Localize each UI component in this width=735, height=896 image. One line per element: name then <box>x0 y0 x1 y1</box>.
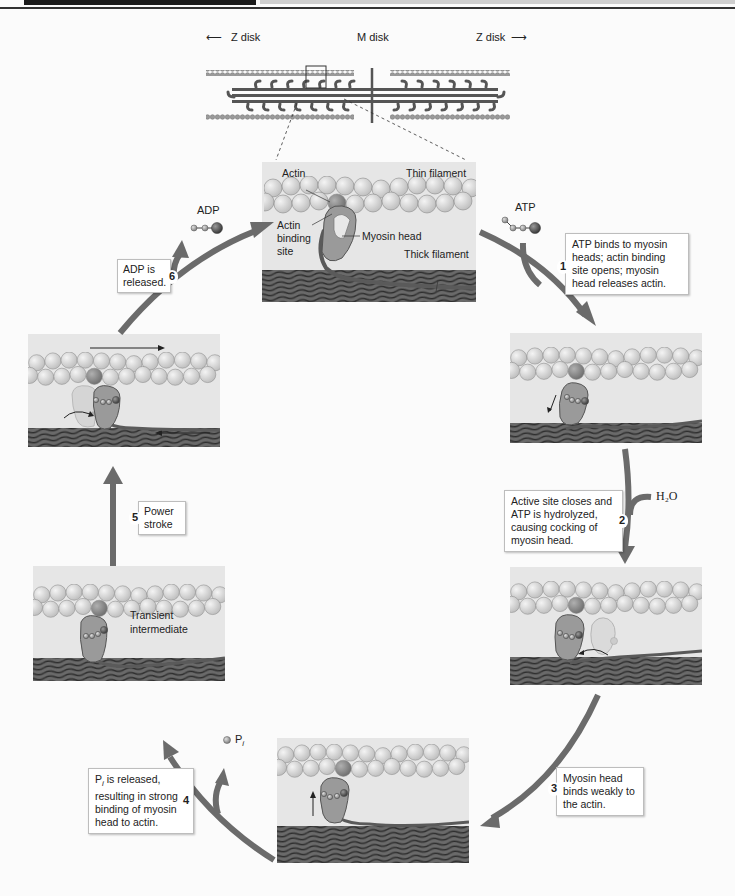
step-3-line-2: binds weakly to <box>563 785 637 798</box>
water-label: H₂O <box>656 490 678 503</box>
step-4-callout: Pi is released, resulting in strong bind… <box>88 768 194 834</box>
step-3-number: 3 <box>548 782 560 796</box>
label-myosin-head: Myosin head <box>362 230 422 243</box>
step-1-callout: ATP binds to myosin heads; actin binding… <box>565 233 689 295</box>
label-actin-binding-site-l3: site <box>277 245 293 258</box>
step-5-line-2: stroke <box>144 518 180 531</box>
step-2-line-3: causing cocking of <box>511 521 616 534</box>
label-actin-binding-site-l2: binding <box>277 232 311 245</box>
pi-icon <box>222 735 232 745</box>
label-actin-binding-site-l1: Actin <box>277 219 300 232</box>
step-3-callout: Myosin head binds weakly to the actin. <box>556 767 644 816</box>
step-4-line-3: binding of myosin <box>95 803 187 816</box>
panel-cocked-head <box>510 567 702 685</box>
panel-power-stroke <box>28 334 220 447</box>
step-4-line-2: resulting in strong <box>95 790 187 803</box>
step-4-line-4: head to actin. <box>95 816 187 829</box>
label-transient-l2: intermediate <box>130 623 188 636</box>
pi-label-sub: i <box>242 739 244 748</box>
step-4-line-1: Pi is released, <box>95 773 187 790</box>
adp-label: ADP <box>197 204 220 217</box>
step-1-line-3: site opens; myosin <box>572 264 682 277</box>
step-2-number: 2 <box>616 514 628 528</box>
step-2-line-1: Active site closes and <box>511 495 616 508</box>
adp-icon <box>189 219 229 237</box>
step-4-pi-sub: i <box>102 779 104 788</box>
step-1-line-4: head releases actin. <box>572 277 682 290</box>
step-4-number: 4 <box>180 794 192 808</box>
step-1-line-2: heads; actin binding <box>572 251 682 264</box>
step-6-line-1: ADP is <box>123 263 165 276</box>
step-4-pi-base: P <box>95 773 102 785</box>
step-4-line-1-text: is released, <box>107 773 161 785</box>
step-5-line-1: Power <box>144 505 180 518</box>
step-2-callout: Active site closes and ATP is hydrolyzed… <box>504 490 623 552</box>
step-1-number: 1 <box>557 260 569 274</box>
step-1-line-1: ATP binds to myosin <box>572 238 682 251</box>
step-3-line-1: Myosin head <box>563 772 637 785</box>
sarcomere-illustration <box>0 0 735 160</box>
panel-transient-intermediate: Transient intermediate <box>33 566 225 681</box>
step-5-callout: Power stroke <box>138 501 186 535</box>
label-actin: Actin <box>282 167 305 180</box>
step-2-line-2: ATP is hydrolyzed, <box>511 508 616 521</box>
step-5-number: 5 <box>129 511 141 525</box>
step-6-number: 6 <box>166 270 178 284</box>
label-thin-filament: Thin filament <box>406 167 466 180</box>
atp-icon <box>499 214 545 244</box>
panel-atp-bound <box>510 333 702 443</box>
panel-rigor-state: Actin Thin filament Actin binding site M… <box>262 162 476 302</box>
step-6-callout: ADP is released. <box>117 259 171 293</box>
label-thick-filament: Thick filament <box>404 248 469 261</box>
atp-label: ATP <box>515 201 536 214</box>
label-transient-l1: Transient <box>130 609 173 622</box>
step-3-line-3: the actin. <box>563 798 637 811</box>
panel-weak-binding <box>277 738 469 863</box>
step-2-line-4: myosin head. <box>511 534 616 547</box>
pi-label: Pi <box>235 733 244 750</box>
step-6-line-2: released. <box>123 276 165 289</box>
